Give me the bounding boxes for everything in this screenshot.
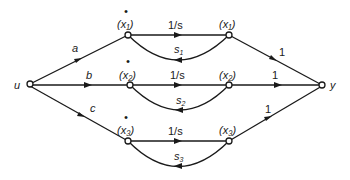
label-x3: (x₃) <box>219 124 237 136</box>
node-x1 <box>226 32 232 38</box>
output-branch-3 <box>229 86 322 141</box>
label-feedback-s3: s3 <box>174 150 184 163</box>
label-forward-gain-2: 1/s <box>170 69 185 81</box>
label-output-gain-2: 1 <box>272 69 278 81</box>
node-x3-dot <box>125 138 131 144</box>
label-x3-dot: (x₃) <box>117 124 135 136</box>
label-x1-dot: (x₁) <box>117 18 134 30</box>
output-branch-2 <box>229 82 322 88</box>
input-branch-a <box>30 35 128 84</box>
node-u <box>27 81 33 87</box>
label-x3-dot-marker: • <box>124 111 128 123</box>
label-x2-dot-marker: • <box>126 55 130 67</box>
label-x1-dot-marker: • <box>124 5 128 17</box>
label-x2: (x₂) <box>219 69 236 81</box>
label-gain-b: b <box>86 69 92 81</box>
label-x2-dot: (x₂) <box>119 69 136 81</box>
label-u: u <box>14 79 20 91</box>
node-x3 <box>226 138 232 144</box>
label-output-gain-1: 1 <box>279 46 285 58</box>
input-branch-b <box>30 82 130 88</box>
label-feedback-s1: s1 <box>174 43 184 56</box>
label-y: y <box>329 79 337 91</box>
label-x1: (x₁) <box>219 18 236 30</box>
label-forward-gain-1: 1/s <box>168 19 183 31</box>
input-branch-c <box>30 86 128 141</box>
node-x1-dot <box>125 32 131 38</box>
node-x2-dot <box>127 82 133 88</box>
label-gain-a: a <box>72 42 78 54</box>
node-x2 <box>226 82 232 88</box>
signal-flow-graph: u y a b c • (x₁) (x₁) 1/s s1 1 • (x₂) (x… <box>0 0 350 180</box>
node-y <box>319 82 325 88</box>
label-output-gain-3: 1 <box>265 103 271 115</box>
label-gain-c: c <box>90 102 96 114</box>
label-feedback-s2: s2 <box>176 94 186 107</box>
label-forward-gain-3: 1/s <box>168 125 183 137</box>
